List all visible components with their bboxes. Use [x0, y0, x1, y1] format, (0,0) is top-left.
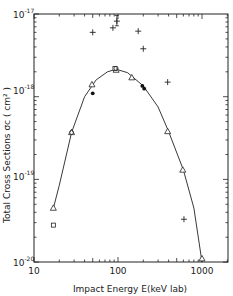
cross-marker	[140, 46, 146, 52]
y-tick-labels: 10-17 10-18 10-19 10-20	[13, 7, 34, 268]
triangle-marker	[129, 74, 135, 79]
y-tick-1e-18: 10-18	[13, 83, 34, 96]
y-tick-1e-19: 10-19	[13, 169, 34, 182]
triangle-marker	[165, 128, 171, 133]
x-tick-100: 100	[109, 266, 126, 276]
cross-marker	[90, 29, 96, 35]
cross-marker	[165, 79, 171, 85]
data-points	[50, 15, 205, 260]
triangle-marker	[180, 167, 186, 172]
x-tick-labels: 10 100 1000	[28, 266, 213, 276]
axis-ticks	[34, 14, 228, 262]
cross-marker	[181, 216, 187, 222]
square-marker	[51, 223, 55, 227]
filled-circle-marker	[91, 91, 95, 95]
x-tick-10: 10	[28, 266, 40, 276]
filled-circle-marker	[142, 87, 146, 91]
x-tick-1000: 1000	[191, 266, 214, 276]
plot-frame	[34, 14, 228, 262]
fit-curve	[53, 69, 202, 262]
triangle-marker	[50, 205, 56, 210]
cross-section-chart: 10-17 10-18 10-19 10-20 10 100 1000 Impa…	[0, 0, 233, 296]
x-axis-title: Impact Energy E(keV lab)	[73, 284, 187, 294]
y-tick-1e-17: 10-17	[13, 7, 34, 20]
y-axis-title: Total Cross Sections σc ( cm² )	[2, 87, 12, 224]
fit-curve-path	[53, 69, 202, 262]
triangle-marker	[199, 255, 205, 260]
cross-marker	[135, 28, 141, 34]
